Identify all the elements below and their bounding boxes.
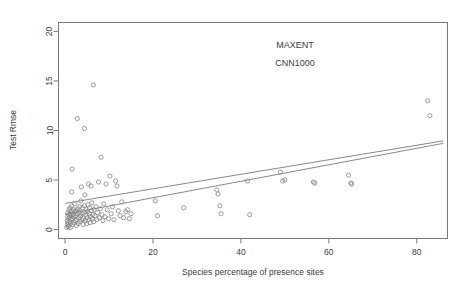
annotation-model-name: MAXENT [276,40,314,50]
chart-figure: 05101520 020406080 Test Rmse Species per… [0,0,462,286]
x-axis-title: Species percentage of presence sites [182,267,324,277]
scatter-plot: 05101520 020406080 Test Rmse Species per… [0,0,462,286]
y-tick-label: 10 [45,126,55,136]
y-tick-label: 15 [45,76,55,86]
x-tick-label: 60 [324,247,334,257]
x-tick-label: 40 [236,247,246,257]
annotation-method-name: CNN1000 [275,58,315,68]
y-tick-label: 20 [45,26,55,36]
plot-background [0,0,462,286]
x-tick-label: 20 [148,247,158,257]
y-tick-label: 5 [45,177,55,182]
x-tick-label: 80 [412,247,422,257]
y-tick-label: 0 [45,227,55,232]
y-axis-title: Test Rmse [8,110,18,150]
x-tick-label: 0 [63,247,68,257]
